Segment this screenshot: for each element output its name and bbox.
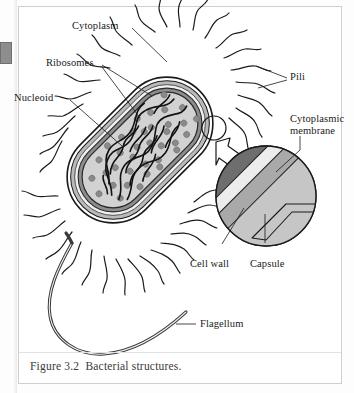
- label-cell-wall: Cell wall: [190, 258, 229, 270]
- label-cytoplasm: Cytoplasm: [72, 20, 118, 32]
- figure-caption: Figure 3.2 Bacterial structures.: [30, 360, 182, 372]
- label-ribosomes: Ribosomes: [46, 57, 94, 69]
- bacterial-cell-body: [48, 58, 232, 242]
- label-cytoplasmic-membrane-line1: Cytoplasmic: [290, 113, 344, 125]
- label-cytoplasmic-membrane-line2: membrane: [290, 125, 335, 137]
- caption-rule: [19, 352, 341, 353]
- label-pili: Pili: [290, 71, 305, 83]
- figure-page: Cytoplasm Ribosomes Nucleoid Pili Cytopl…: [0, 0, 354, 393]
- flagellum: [49, 233, 186, 354]
- label-nucleoid: Nucleoid: [14, 92, 53, 104]
- label-flagellum: Flagellum: [200, 318, 243, 330]
- label-capsule: Capsule: [250, 258, 285, 270]
